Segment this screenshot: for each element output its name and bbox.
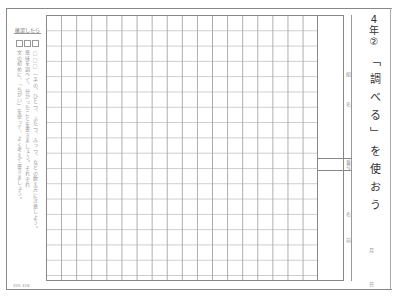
number-label: 番号 xyxy=(345,160,352,170)
check-box[interactable] xyxy=(32,40,39,47)
worksheet-code: 420 418 xyxy=(13,283,30,288)
instruction-line: □□□ 一字の、ひとつ、ふたつ、みっつ、などの数え方に注意しよう。 xyxy=(32,50,38,231)
grade-number: 4 xyxy=(360,14,388,25)
check-box[interactable] xyxy=(24,40,31,47)
day-label: 日 xyxy=(369,280,374,287)
worksheet-title: 「調べる」を使おう xyxy=(367,55,381,217)
instruction-line: 意味を調べて、分かったことを書きましょう。それぞれ xyxy=(24,50,30,188)
class-label: 組 xyxy=(345,72,352,77)
name-divider xyxy=(318,170,352,171)
blank-box xyxy=(318,15,344,281)
title-column: 4 年 ② 「調べる」を使おう xyxy=(360,14,388,217)
check-box[interactable] xyxy=(16,40,23,47)
worksheet-number: ② xyxy=(360,36,388,47)
instruction-line: 文の初めに、「ちがい」を使って、よく考えて書きましょう。 xyxy=(16,50,22,202)
name-label: 前 xyxy=(345,238,352,243)
grade-unit: 年 xyxy=(360,25,388,36)
frame-right-edge xyxy=(390,8,391,290)
class-label: 名 xyxy=(345,102,352,107)
check-boxes xyxy=(16,40,39,47)
writing-grid[interactable] xyxy=(46,15,318,281)
name-label: 名 xyxy=(345,212,352,217)
month-label: 月 xyxy=(369,246,374,253)
name-divider xyxy=(318,158,352,159)
instructions-title: 確認したら xyxy=(14,26,41,34)
instructions-panel: 確認したら □□□ 一字の、ひとつ、ふたつ、みっつ、などの数え方に注意しよう。 … xyxy=(8,20,46,260)
